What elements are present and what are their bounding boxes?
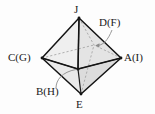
vertex-dot-front xyxy=(77,68,80,71)
octahedron-faces xyxy=(42,18,121,94)
vertex-dot-left xyxy=(41,57,44,60)
vertex-label-front: B(H) xyxy=(36,86,59,97)
vertex-label-left: C(G) xyxy=(8,52,31,63)
vertex-dot-right xyxy=(120,57,123,60)
vertex-label-bottom: E xyxy=(76,99,83,110)
vertex-dot-top xyxy=(78,17,81,20)
vertex-label-top: J xyxy=(74,4,78,15)
vertex-dot-bottom xyxy=(80,93,83,96)
vertex-label-back: D(F) xyxy=(99,17,120,28)
octahedron-figure: J D(F) C(G) A(I) B(H) E xyxy=(0,0,155,114)
edge-top-front xyxy=(78,18,79,69)
vertex-label-right: A(I) xyxy=(124,52,143,63)
